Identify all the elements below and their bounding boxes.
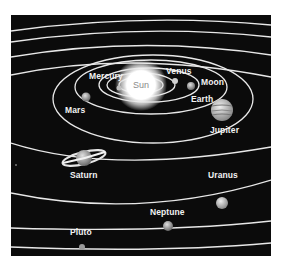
neptune-label: Neptune [150,208,185,217]
earth-icon [187,82,195,90]
venus-label: Venus [166,67,192,76]
venus-icon [172,78,178,84]
neptune-icon [163,221,173,231]
uranus-icon [216,197,228,209]
earth-label: Earth [191,95,213,104]
jupiter-icon [211,99,233,121]
saturn-label: Saturn [70,171,98,180]
sun-label: Sun [133,81,149,90]
mercury-icon [117,86,122,91]
orbits-drawing [11,15,271,256]
uranus-label: Uranus [208,171,238,180]
pluto-icon [79,244,85,250]
saturn-icon [61,147,107,169]
mars-icon [82,93,91,102]
solar-system-diagram: Sun Mercury Venus Earth Moon Mars Jupite… [11,15,271,256]
mercury-label: Mercury [89,72,123,81]
jupiter-label: Jupiter [210,126,239,135]
mars-label: Mars [65,106,85,115]
moon-label: Moon [201,78,224,87]
pluto-label: Pluto [70,228,92,237]
